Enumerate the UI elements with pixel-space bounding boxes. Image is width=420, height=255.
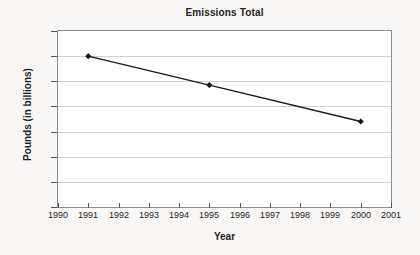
x-axis-tick — [240, 203, 241, 208]
x-axis-tick — [119, 203, 120, 208]
data-series-layer — [58, 31, 391, 207]
x-axis-tick — [149, 203, 150, 208]
x-axis-tick — [391, 203, 392, 208]
data-point-marker — [85, 53, 91, 59]
x-axis-tick — [330, 203, 331, 208]
chart-title: Emissions Total — [57, 7, 392, 18]
x-axis-tick — [270, 203, 271, 208]
y-axis-title: Pounds (in billions) — [22, 26, 33, 204]
x-axis-tick — [58, 203, 59, 208]
x-axis-tick — [179, 203, 180, 208]
data-point-marker — [358, 118, 364, 124]
emissions-total-line-chart: Emissions Total 00.20.40.60.811.21.4 199… — [0, 0, 420, 255]
series-line — [88, 56, 360, 121]
x-axis-tick-label: 2001 — [371, 210, 411, 220]
x-axis-tick — [209, 203, 210, 208]
x-axis-tick — [88, 203, 89, 208]
x-axis-tick — [300, 203, 301, 208]
x-axis-tick — [361, 203, 362, 208]
data-point-marker — [206, 82, 212, 88]
x-axis-title: Year — [57, 231, 392, 242]
plot-area — [57, 30, 392, 208]
